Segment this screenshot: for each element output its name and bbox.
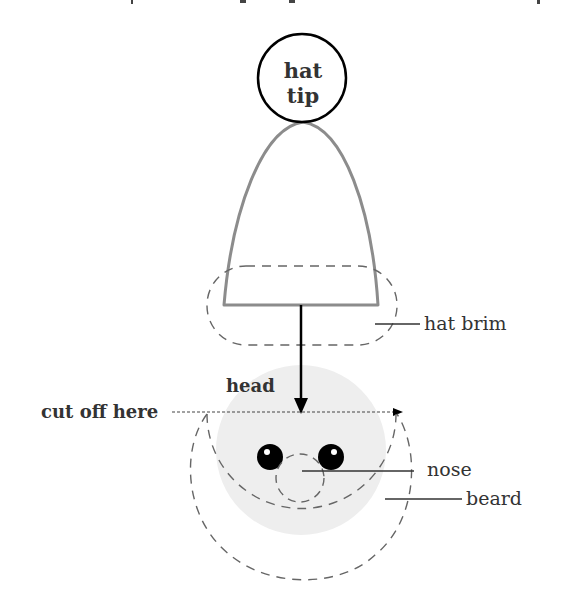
hat-tip-label-line2: tip bbox=[287, 83, 319, 108]
hat-brim-label: hat brim bbox=[424, 312, 507, 334]
cut-off-label: cut off here bbox=[41, 401, 158, 422]
clipped-text-fragment bbox=[131, 0, 540, 4]
nose-label: nose bbox=[427, 458, 472, 480]
hat-tip-label-line1: hat bbox=[284, 58, 323, 83]
beard-label: beard bbox=[466, 487, 522, 509]
right-eye bbox=[318, 444, 344, 470]
hat-cone bbox=[224, 122, 378, 305]
head-label: head bbox=[226, 375, 275, 396]
diagram-canvas: hat tip hat brim head cut off here nose … bbox=[0, 0, 562, 611]
